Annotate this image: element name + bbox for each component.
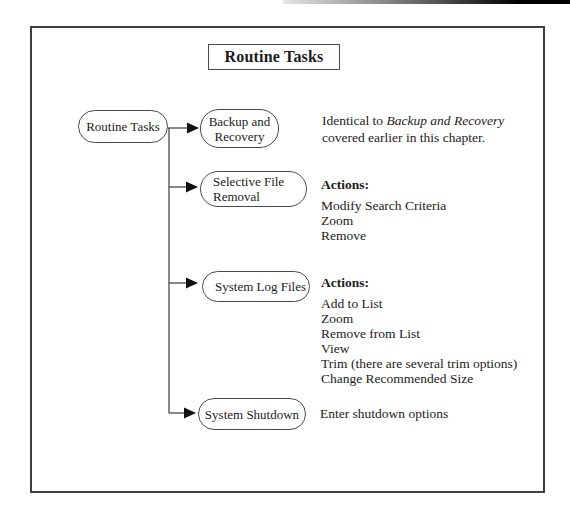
action-item: Remove: [321, 228, 446, 243]
node-system-shutdown: System Shutdown: [198, 398, 306, 430]
action-item: Modify Search Criteria: [321, 198, 446, 213]
actions-heading: Actions:: [321, 275, 517, 291]
action-item: Change Recommended Size: [321, 371, 517, 386]
node-selective-file-removal-label: Selective File Removal: [213, 174, 284, 204]
description-italic-text: Backup and Recovery: [386, 113, 504, 128]
node-system-log-files-label: System Log Files: [215, 279, 306, 294]
actions-heading: Actions:: [321, 177, 446, 193]
node-backup-and-recovery-label: Backup and Recovery: [209, 114, 271, 144]
page-header-rule: [283, 0, 570, 4]
description-backup-and-recovery: Identical to Backup and Recovery covered…: [322, 112, 504, 146]
description-system-shutdown: Enter shutdown options: [320, 405, 448, 422]
description-text: Identical to: [322, 113, 386, 128]
node-routine-tasks-label: Routine Tasks: [86, 119, 160, 134]
node-selective-file-removal: Selective File Removal: [200, 171, 307, 207]
node-routine-tasks: Routine Tasks: [78, 110, 168, 143]
description-line-2: covered earlier in this chapter.: [322, 129, 504, 146]
node-system-log-files: System Log Files: [202, 271, 310, 302]
diagram-title: Routine Tasks: [224, 48, 323, 66]
description-line-1: Enter shutdown options: [320, 405, 448, 422]
action-item: Trim (there are several trim options): [321, 356, 517, 371]
action-item: Add to List: [321, 296, 517, 311]
action-item: Zoom: [321, 311, 517, 326]
node-system-shutdown-label: System Shutdown: [205, 407, 299, 422]
node-backup-and-recovery: Backup and Recovery: [200, 109, 279, 148]
action-item: Remove from List: [321, 326, 517, 341]
action-item: Zoom: [321, 213, 446, 228]
diagram-title-box: Routine Tasks: [208, 44, 340, 70]
actions-selective-file-removal: Actions: Modify Search Criteria Zoom Rem…: [321, 177, 446, 243]
actions-system-log-files: Actions: Add to List Zoom Remove from Li…: [321, 275, 517, 386]
scanned-page: Routine Tasks Routine Tasks Backup and R…: [0, 0, 570, 517]
action-item: View: [321, 341, 517, 356]
description-line-1: Identical to Backup and Recovery: [322, 112, 504, 129]
